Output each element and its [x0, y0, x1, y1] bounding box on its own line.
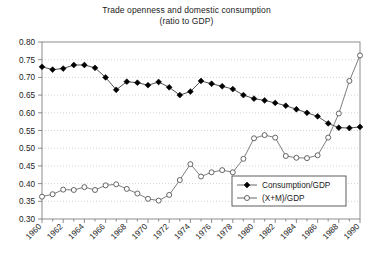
data-point-open-circle: [146, 196, 151, 201]
y-axis-tick-label: 0.75: [19, 56, 35, 65]
data-point-open-circle: [347, 78, 352, 83]
data-point-open-circle: [220, 168, 225, 173]
chart-figure: Trade openness and domestic consumption …: [0, 0, 373, 259]
x-axis-tick-label: 1962: [45, 222, 65, 242]
data-point-filled-diamond: [304, 110, 310, 116]
x-axis-tick-label: 1966: [88, 222, 108, 242]
y-axis-tick-label: 0.80: [19, 38, 35, 47]
data-point-filled-diamond: [294, 106, 300, 112]
data-point-open-circle: [326, 135, 331, 140]
y-axis-tick-label: 0.65: [19, 91, 35, 100]
data-point-filled-diamond: [177, 92, 183, 98]
data-point-open-circle: [40, 194, 45, 199]
y-axis-tick-label: 0.55: [19, 127, 35, 136]
data-point-open-circle: [273, 135, 278, 140]
data-point-open-circle: [135, 191, 140, 196]
data-point-filled-diamond: [219, 83, 225, 89]
x-axis-tick-label: 1982: [257, 222, 277, 242]
data-point-filled-diamond: [357, 124, 363, 130]
data-point-filled-diamond: [241, 92, 247, 98]
data-point-filled-diamond: [60, 66, 66, 72]
y-axis-tick-label: 0.35: [19, 197, 35, 206]
data-point-filled-diamond: [135, 80, 141, 86]
legend-label: Consumption/GDP: [262, 181, 331, 190]
data-point-filled-diamond: [39, 64, 45, 70]
data-point-filled-diamond: [251, 96, 257, 102]
data-point-open-circle: [241, 156, 246, 161]
data-point-open-circle: [294, 155, 299, 160]
data-point-filled-diamond: [50, 67, 56, 73]
data-point-filled-diamond: [325, 121, 331, 127]
data-point-filled-diamond: [82, 62, 88, 68]
data-point-open-circle: [252, 136, 257, 141]
x-axis-tick-label: 1968: [109, 222, 129, 242]
y-axis-tick-label: 0.30: [19, 215, 35, 224]
data-point-open-circle: [71, 187, 76, 192]
data-point-open-circle: [315, 153, 320, 158]
data-point-filled-diamond: [156, 79, 162, 85]
data-point-filled-diamond: [272, 100, 278, 106]
y-axis-tick-label: 0.40: [19, 180, 35, 189]
data-point-open-circle: [177, 178, 182, 183]
data-point-open-circle: [124, 186, 129, 191]
data-point-open-circle: [50, 192, 55, 197]
data-point-open-circle: [283, 153, 288, 158]
data-point-filled-diamond: [262, 98, 268, 104]
x-axis-tick-labels: 1960196219641966196819701972197419761978…: [24, 222, 362, 242]
data-point-open-circle: [156, 198, 161, 203]
data-point-open-circle: [167, 192, 172, 197]
chart-legend: Consumption/GDP(X+M)/GDP: [232, 176, 346, 206]
data-point-filled-diamond: [71, 62, 77, 68]
data-point-open-circle: [358, 53, 363, 58]
data-point-open-circle: [209, 170, 214, 175]
data-point-open-circle: [61, 187, 66, 192]
data-point-filled-diamond: [283, 103, 289, 109]
x-axis-tick-label: 1980: [236, 222, 256, 242]
data-point-filled-diamond: [347, 125, 353, 131]
data-point-filled-diamond: [166, 84, 172, 90]
x-axis-tick-label: 1984: [279, 222, 299, 242]
data-point-open-circle: [245, 196, 250, 201]
data-point-filled-diamond: [230, 86, 236, 92]
data-point-open-circle: [305, 156, 310, 161]
data-point-filled-diamond: [315, 113, 321, 119]
x-axis-tick-label: 1972: [151, 222, 171, 242]
y-axis-tick-labels: 0.800.750.700.650.600.550.500.450.400.35…: [19, 38, 35, 224]
data-point-filled-diamond: [145, 82, 151, 88]
legend-label: (X+M)/GDP: [262, 194, 305, 203]
series-1: [39, 62, 363, 131]
data-point-open-circle: [199, 174, 204, 179]
data-point-open-circle: [103, 183, 108, 188]
x-axis-tick-label: 1988: [321, 222, 341, 242]
x-axis-tick-label: 1970: [130, 222, 150, 242]
x-axis-tick-label: 1976: [194, 222, 214, 242]
x-axis-tick-label: 1990: [342, 222, 362, 242]
x-axis-tick-label: 1978: [215, 222, 235, 242]
series-line: [42, 65, 360, 128]
chart-plot-area: 0.800.750.700.650.600.550.500.450.400.35…: [0, 0, 373, 259]
data-point-open-circle: [262, 133, 267, 138]
data-point-open-circle: [93, 187, 98, 192]
data-point-filled-diamond: [336, 125, 342, 131]
data-point-open-circle: [230, 170, 235, 175]
y-axis-tick-label: 0.60: [19, 109, 35, 118]
data-point-open-circle: [188, 162, 193, 167]
x-axis-tick-label: 1986: [300, 222, 320, 242]
y-axis-tick-label: 0.70: [19, 73, 35, 82]
data-point-open-circle: [82, 185, 87, 190]
data-point-open-circle: [114, 182, 119, 187]
data-point-filled-diamond: [209, 81, 215, 87]
data-point-open-circle: [336, 111, 341, 116]
x-axis-tick-label: 1960: [24, 222, 44, 242]
y-axis-tick-label: 0.45: [19, 162, 35, 171]
x-axis-tick-label: 1974: [173, 222, 193, 242]
x-axis-tick-label: 1964: [67, 222, 87, 242]
y-axis-tick-label: 0.50: [19, 144, 35, 153]
